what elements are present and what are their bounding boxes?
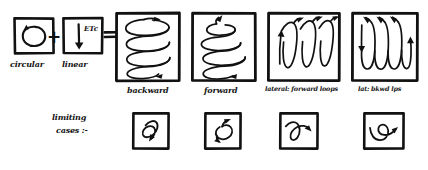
page-edge-artifact [0, 166, 428, 170]
source-box-linear[interactable] [61, 16, 105, 56]
limiting-cases-label-line1: limiting [52, 113, 86, 121]
limiting-case-box-1[interactable] [131, 111, 171, 151]
vertical-loops-down-icon [350, 11, 420, 83]
limiting-case-box-3[interactable] [278, 111, 320, 151]
linear-annotation-etc: ETc [84, 24, 98, 33]
result-box-forward[interactable] [190, 11, 258, 83]
loop-swoop-right-icon [362, 111, 406, 151]
result-box-backward[interactable] [114, 11, 182, 83]
result-label-lateral-backward: lat: bkwd lps [358, 86, 401, 92]
loop-right-arrow-icon [278, 111, 320, 151]
diagram-canvas: circular + ETc linear = [0, 0, 428, 170]
loop-down-tail-icon [131, 111, 171, 151]
result-box-lateral-forward[interactable] [266, 11, 342, 83]
result-label-lateral-forward: lateral: forward loops [265, 86, 338, 92]
result-label-forward: forward [204, 86, 237, 94]
limiting-case-box-4[interactable] [362, 111, 406, 151]
limiting-cases-label-line2: cases :- [56, 126, 88, 134]
source-label-linear: linear [62, 60, 87, 68]
limiting-case-box-2[interactable] [203, 111, 243, 151]
down-arrow-icon [61, 16, 105, 56]
ascending-spiral-icon [190, 11, 258, 83]
vertical-loops-up-icon [266, 11, 342, 83]
result-label-backward: backward [127, 86, 168, 94]
descending-helix-icon [114, 11, 182, 83]
plus-operator: + [47, 29, 61, 46]
loop-up-arrow-icon [203, 111, 243, 151]
source-label-circular: circular [10, 60, 44, 68]
result-box-lateral-backward[interactable] [350, 11, 420, 83]
